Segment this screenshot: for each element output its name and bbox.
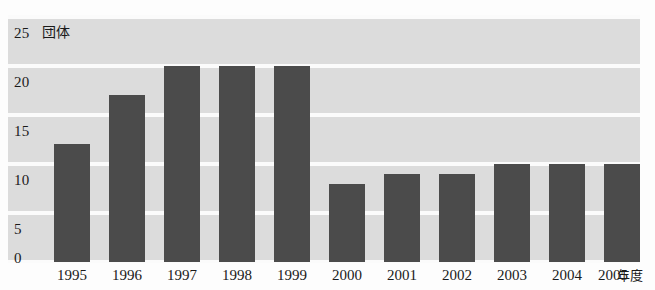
bar-2002 [439,174,475,262]
x-tick-label-1996: 1996 [97,266,157,286]
bar-1998 [219,66,255,262]
y-tick-label-10: 10 [14,173,29,188]
bar-1997 [164,66,200,262]
y-tick-label-0: 0 [14,251,22,266]
x-tick-label-2000: 2000 [317,266,377,286]
x-tick-label-2002: 2002 [427,266,487,286]
bar-1999 [274,66,310,262]
y-tick-label-5: 5 [14,222,22,237]
x-axis-suffix-label: 年度 [617,268,643,285]
x-tick-label-1998: 1998 [207,266,267,286]
y-axis-unit-label: 団体 [42,26,70,40]
bar-2003 [494,164,530,262]
y-tick-label-25: 25 [14,26,29,41]
x-tick-label-1997: 1997 [152,266,212,286]
bar-2005 [604,164,640,262]
x-axis-labels: 1995 1996 1997 1998 1999 2000 2001 2002 … [8,266,640,290]
bar-1995 [54,144,90,262]
bar-chart: 25 団体 20 15 10 5 0 1995 1996 1997 1998 1… [0,0,655,290]
x-tick-label-1995: 1995 [42,266,102,286]
bars-layer [8,15,640,263]
y-tick-label-20: 20 [14,75,29,90]
bar-1996 [109,95,145,262]
x-tick-label-2001: 2001 [372,266,432,286]
y-tick-label-15: 15 [14,124,29,139]
x-tick-label-2003: 2003 [482,266,542,286]
bar-2000 [329,184,365,262]
plot-area [8,15,640,263]
bar-2004 [549,164,585,262]
x-tick-label-1999: 1999 [262,266,322,286]
bar-2001 [384,174,420,262]
